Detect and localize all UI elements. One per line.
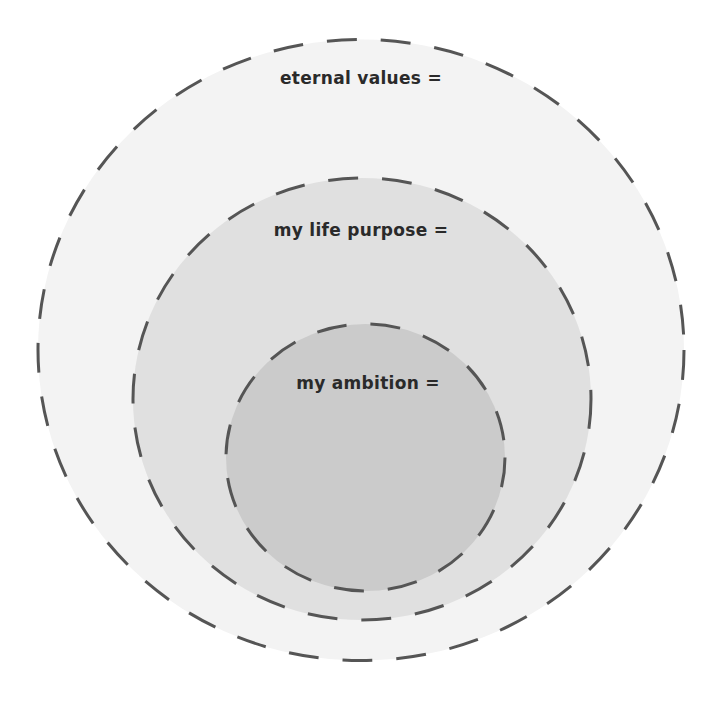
inner-circle-ambition — [226, 324, 505, 591]
nested-circles-diagram: eternal values = my life purpose = my am… — [0, 0, 724, 703]
label-life-purpose: my life purpose = — [274, 220, 449, 240]
label-ambition: my ambition = — [296, 373, 440, 393]
label-eternal-values: eternal values = — [280, 68, 442, 88]
